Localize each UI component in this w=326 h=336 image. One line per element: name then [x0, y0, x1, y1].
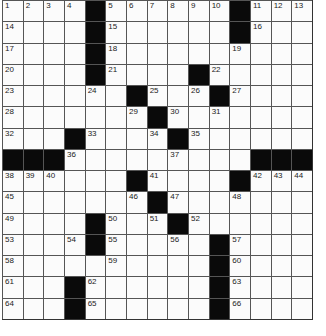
grid-cell[interactable]: [126, 298, 147, 319]
grid-cell[interactable]: 8: [167, 0, 188, 21]
grid-cell[interactable]: 40: [43, 170, 64, 191]
grid-cell[interactable]: [105, 85, 126, 106]
grid-cell[interactable]: [64, 21, 85, 42]
grid-cell[interactable]: [167, 298, 188, 319]
grid-cell[interactable]: [23, 298, 44, 319]
grid-cell[interactable]: [271, 255, 292, 276]
grid-cell[interactable]: 49: [2, 213, 23, 234]
grid-cell[interactable]: [250, 128, 271, 149]
grid-cell[interactable]: [126, 43, 147, 64]
grid-cell[interactable]: [229, 106, 250, 127]
grid-cell[interactable]: [43, 255, 64, 276]
grid-cell[interactable]: 38: [2, 170, 23, 191]
grid-cell[interactable]: [209, 213, 230, 234]
grid-cell[interactable]: [209, 128, 230, 149]
grid-cell[interactable]: [23, 128, 44, 149]
grid-cell[interactable]: 14: [2, 21, 23, 42]
grid-cell[interactable]: [85, 255, 106, 276]
grid-cell[interactable]: [167, 255, 188, 276]
grid-cell[interactable]: [291, 43, 312, 64]
grid-cell[interactable]: 55: [105, 234, 126, 255]
grid-cell[interactable]: 11: [250, 0, 271, 21]
grid-cell[interactable]: [188, 149, 209, 170]
grid-cell[interactable]: 21: [105, 64, 126, 85]
grid-cell[interactable]: [167, 64, 188, 85]
grid-cell[interactable]: [64, 191, 85, 212]
grid-cell[interactable]: 63: [229, 276, 250, 297]
grid-cell[interactable]: [23, 21, 44, 42]
grid-cell[interactable]: 57: [229, 234, 250, 255]
grid-cell[interactable]: [188, 106, 209, 127]
grid-cell[interactable]: 29: [126, 106, 147, 127]
grid-cell[interactable]: [291, 191, 312, 212]
grid-cell[interactable]: [291, 106, 312, 127]
grid-cell[interactable]: [291, 128, 312, 149]
grid-cell[interactable]: 66: [229, 298, 250, 319]
grid-cell[interactable]: [43, 213, 64, 234]
grid-cell[interactable]: 27: [229, 85, 250, 106]
grid-cell[interactable]: 52: [188, 213, 209, 234]
grid-cell[interactable]: 37: [167, 149, 188, 170]
grid-cell[interactable]: [271, 213, 292, 234]
grid-cell[interactable]: [250, 255, 271, 276]
grid-cell[interactable]: [147, 64, 168, 85]
grid-cell[interactable]: 48: [229, 191, 250, 212]
grid-cell[interactable]: [43, 191, 64, 212]
grid-cell[interactable]: 44: [291, 170, 312, 191]
grid-cell[interactable]: [271, 21, 292, 42]
grid-cell[interactable]: [147, 234, 168, 255]
grid-cell[interactable]: [291, 276, 312, 297]
grid-cell[interactable]: [250, 234, 271, 255]
grid-cell[interactable]: [209, 191, 230, 212]
grid-cell[interactable]: 1: [2, 0, 23, 21]
grid-cell[interactable]: [271, 191, 292, 212]
grid-cell[interactable]: [250, 298, 271, 319]
grid-cell[interactable]: [271, 234, 292, 255]
grid-cell[interactable]: [250, 64, 271, 85]
grid-cell[interactable]: [250, 191, 271, 212]
grid-cell[interactable]: 39: [23, 170, 44, 191]
grid-cell[interactable]: [291, 64, 312, 85]
grid-cell[interactable]: 35: [188, 128, 209, 149]
grid-cell[interactable]: 33: [85, 128, 106, 149]
grid-cell[interactable]: 60: [229, 255, 250, 276]
grid-cell[interactable]: [209, 149, 230, 170]
grid-cell[interactable]: 34: [147, 128, 168, 149]
grid-cell[interactable]: [23, 191, 44, 212]
grid-cell[interactable]: [64, 43, 85, 64]
grid-cell[interactable]: 62: [85, 276, 106, 297]
grid-cell[interactable]: 59: [105, 255, 126, 276]
grid-cell[interactable]: [43, 21, 64, 42]
grid-cell[interactable]: [147, 255, 168, 276]
grid-cell[interactable]: 54: [64, 234, 85, 255]
grid-cell[interactable]: [188, 234, 209, 255]
grid-cell[interactable]: 30: [167, 106, 188, 127]
grid-cell[interactable]: [64, 106, 85, 127]
grid-cell[interactable]: 15: [105, 21, 126, 42]
grid-cell[interactable]: [271, 43, 292, 64]
grid-cell[interactable]: [188, 43, 209, 64]
grid-cell[interactable]: [147, 21, 168, 42]
grid-cell[interactable]: [126, 234, 147, 255]
grid-cell[interactable]: [167, 85, 188, 106]
grid-cell[interactable]: [85, 191, 106, 212]
grid-cell[interactable]: [85, 149, 106, 170]
grid-cell[interactable]: [271, 85, 292, 106]
grid-cell[interactable]: [43, 298, 64, 319]
grid-cell[interactable]: 23: [2, 85, 23, 106]
grid-cell[interactable]: [271, 64, 292, 85]
grid-cell[interactable]: [209, 170, 230, 191]
grid-cell[interactable]: 16: [250, 21, 271, 42]
grid-cell[interactable]: [126, 21, 147, 42]
grid-cell[interactable]: 47: [167, 191, 188, 212]
grid-cell[interactable]: [64, 255, 85, 276]
grid-cell[interactable]: [43, 128, 64, 149]
grid-cell[interactable]: [105, 149, 126, 170]
grid-cell[interactable]: [167, 21, 188, 42]
grid-cell[interactable]: [23, 43, 44, 64]
grid-cell[interactable]: 26: [188, 85, 209, 106]
grid-cell[interactable]: 50: [105, 213, 126, 234]
grid-cell[interactable]: 46: [126, 191, 147, 212]
grid-cell[interactable]: [147, 43, 168, 64]
grid-cell[interactable]: [229, 128, 250, 149]
